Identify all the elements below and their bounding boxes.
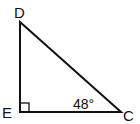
triangle-dec xyxy=(20,22,121,112)
triangle-diagram: D E C 48° xyxy=(0,0,140,124)
angle-label-c: 48° xyxy=(73,96,94,112)
vertex-label-e: E xyxy=(2,104,12,121)
right-angle-marker xyxy=(20,103,29,112)
vertex-label-c: C xyxy=(123,107,134,124)
vertex-label-d: D xyxy=(14,4,25,21)
